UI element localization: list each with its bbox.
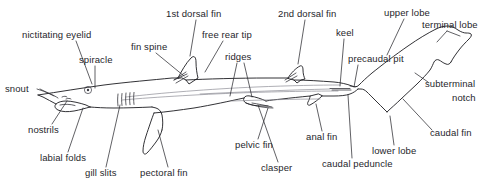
label-pectoral-fin: pectoral fin bbox=[140, 168, 188, 178]
shark-anatomy-diagram: nictitating eyelid snout spiracle fin sp… bbox=[0, 0, 487, 186]
label-anal-fin: anal fin bbox=[306, 132, 337, 142]
leader-second-dorsal-fin bbox=[298, 20, 305, 64]
nostril-mark-2 bbox=[66, 98, 71, 99]
leader-upper-lobe bbox=[387, 19, 404, 55]
label-nostrils: nostrils bbox=[28, 125, 59, 135]
label-keel: keel bbox=[336, 28, 354, 38]
eye-pupil bbox=[87, 89, 89, 91]
label-snout: snout bbox=[5, 84, 29, 94]
leader-ridges-1 bbox=[230, 63, 237, 96]
leader-terminal-lobe-seg1 bbox=[447, 31, 460, 36]
leader-nostrils bbox=[52, 101, 67, 124]
labial-fold-line bbox=[60, 104, 75, 105]
leader-anal-fin bbox=[316, 104, 322, 131]
leader-terminal-lobe-seg2 bbox=[437, 31, 447, 42]
label-caudal-peduncle: caudal peduncle bbox=[322, 159, 393, 169]
label-second-dorsal-fin: 2nd dorsal fin bbox=[278, 9, 336, 19]
leader-keel bbox=[340, 39, 344, 86]
leader-gill-slits bbox=[106, 105, 120, 167]
nostril-mark-1 bbox=[62, 96, 67, 97]
label-terminal-lobe: terminal lobe bbox=[422, 20, 478, 30]
label-pelvic-fin: pelvic fin bbox=[235, 140, 273, 150]
leader-caudal-peduncle bbox=[348, 95, 352, 158]
label-caudal-fin: caudal fin bbox=[430, 128, 472, 138]
leader-labial-folds bbox=[68, 108, 83, 152]
label-free-rear-tip: free rear tip bbox=[202, 30, 252, 40]
leader-precaudal-pit bbox=[354, 65, 358, 87]
label-gill-slits: gill slits bbox=[85, 168, 117, 178]
leader-clasper bbox=[258, 105, 278, 162]
label-ridges: ridges bbox=[225, 52, 251, 62]
label-upper-lobe: upper lobe bbox=[384, 8, 430, 18]
label-fin-spine: fin spine bbox=[131, 42, 167, 52]
leader-first-dorsal-fin bbox=[190, 20, 196, 56]
shark-body-outline bbox=[38, 26, 471, 154]
label-clasper: clasper bbox=[261, 163, 292, 173]
leader-lower-lobe bbox=[390, 116, 394, 145]
label-lower-lobe: lower lobe bbox=[372, 146, 416, 156]
label-labial-folds: labial folds bbox=[40, 153, 86, 163]
label-nictitating-eyelid: nictitating eyelid bbox=[22, 30, 91, 40]
label-first-dorsal-fin: 1st dorsal fin bbox=[166, 9, 221, 19]
leader-caudal-fin bbox=[403, 99, 432, 130]
leader-pelvic-fin bbox=[258, 108, 268, 139]
label-subterminal: subterminal bbox=[425, 79, 475, 89]
leader-fin-spine bbox=[156, 53, 184, 76]
keel-detail bbox=[330, 89, 351, 91]
label-spiracle: spiracle bbox=[79, 55, 113, 65]
label-precaudal-pit: precaudal pit bbox=[348, 54, 404, 64]
label-notch: notch bbox=[452, 93, 476, 103]
leader-pectoral-fin bbox=[158, 130, 168, 167]
leader-free-rear-tip bbox=[205, 41, 223, 72]
